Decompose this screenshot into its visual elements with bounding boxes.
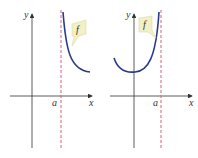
right-panel: f y x a <box>110 9 194 148</box>
right-f-tag <box>139 16 156 38</box>
figure: f y x a f y x a <box>0 0 198 158</box>
left-y-label: y <box>23 9 29 20</box>
left-x-label: x <box>88 97 94 108</box>
right-x-label: x <box>188 97 194 108</box>
right-y-label: y <box>125 9 131 20</box>
left-panel: f y x a <box>10 9 94 148</box>
left-a-label: a <box>52 97 57 108</box>
left-f-tag <box>72 20 86 46</box>
right-a-label: a <box>153 97 158 108</box>
